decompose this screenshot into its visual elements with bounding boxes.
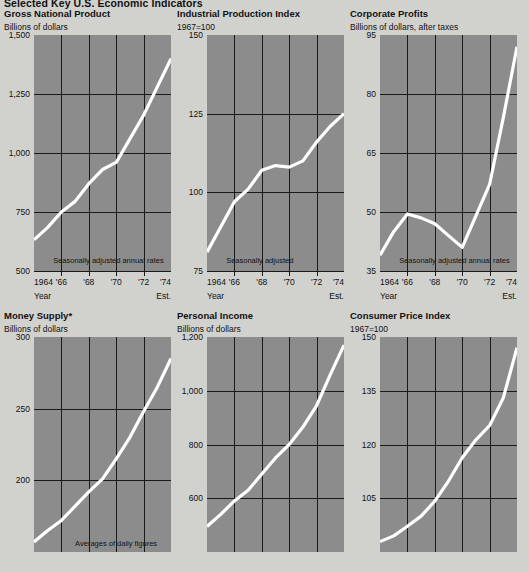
x-axis-footer: Year Est.	[380, 291, 517, 303]
y-axis-tick-label: 95	[367, 31, 376, 40]
x-axis-estimate-note: Est.	[156, 291, 171, 302]
x-axis-name: Year	[380, 291, 397, 302]
x-axis-tick-label: 1964	[380, 277, 399, 288]
x-axis-footer: Year Est.	[207, 291, 344, 303]
plot-area: Averages of daily figures	[34, 337, 171, 552]
plot-area-wrapper: 1,5001,2501,000750500 Seasonally adjuste…	[4, 35, 177, 271]
y-axis-labels: 15012510075	[177, 35, 205, 271]
x-axis-tick-label: '74	[160, 277, 171, 288]
x-axis-labels: 1964'66'68'70'72'74	[34, 277, 171, 289]
x-axis-tick	[317, 272, 318, 276]
y-axis-tick-label: 1,250	[9, 90, 30, 99]
chart-title: Corporate Profits	[350, 8, 523, 19]
x-axis-estimate-note: Est.	[502, 291, 517, 302]
y-axis-tick-label: 50	[367, 208, 376, 217]
x-axis-tick-label: 1964	[207, 277, 226, 288]
chart-title: Industrial Production Index	[177, 8, 350, 19]
y-axis-tick-label: 150	[189, 31, 203, 40]
chart-annotation: Averages of daily figures	[75, 539, 157, 548]
x-axis-tick	[234, 272, 235, 276]
plot-area: Seasonally adjusted annual rates	[34, 35, 171, 271]
y-axis-tick-label: 200	[16, 476, 30, 485]
plot-area-wrapper: 150135120105	[350, 337, 523, 552]
x-axis-tick-label: '66	[56, 277, 67, 288]
x-axis-name: Year	[34, 291, 51, 302]
y-axis-tick-label: 75	[194, 267, 203, 276]
x-axis-ticks	[34, 272, 171, 276]
y-axis-tick-label: 300	[16, 333, 30, 342]
chart-title: Gross National Product	[4, 8, 177, 19]
x-axis-tick-label: '66	[402, 277, 413, 288]
x-axis-tick	[289, 272, 290, 276]
data-series-line	[207, 337, 344, 552]
plot-area-wrapper: 9580655035 Seasonally adjusted annual ra…	[350, 35, 523, 271]
chart-panel-consumer-price-index: Consumer Price Index 1967=100 1501351201…	[350, 310, 523, 572]
chart-title: Consumer Price Index	[350, 310, 523, 321]
x-axis-tick-label: '68	[256, 277, 267, 288]
x-axis-tick	[407, 272, 408, 276]
y-axis-tick-label: 750	[16, 208, 30, 217]
plot-area: Seasonally adjusted	[207, 35, 344, 271]
x-axis-tick	[61, 272, 62, 276]
chart-row-top: Gross National Product Billions of dolla…	[0, 8, 529, 310]
plot-area-wrapper: 1,2001,000800600	[177, 337, 350, 552]
plot-area	[380, 337, 517, 552]
chart-panel-industrial-production-index: Industrial Production Index 1967=100 150…	[177, 8, 350, 310]
chart-panel-personal-income: Personal Income Billions of dollars 1,20…	[177, 310, 350, 572]
y-axis-labels: 300250200	[4, 337, 32, 552]
x-axis-tick-label: '72	[311, 277, 322, 288]
x-axis-tick-label: '70	[111, 277, 122, 288]
data-series-line	[380, 35, 517, 271]
chart-panel-money-supply: Money Supply* Billions of dollars 300250…	[4, 310, 177, 572]
y-axis-tick-label: 65	[367, 149, 376, 158]
x-axis-tick-label: '70	[457, 277, 468, 288]
chart-annotation: Seasonally adjusted annual rates	[53, 256, 164, 265]
chart-title: Personal Income	[177, 310, 350, 321]
x-axis-tick-label: '74	[333, 277, 344, 288]
y-axis-tick-label: 100	[189, 188, 203, 197]
y-axis-tick-label: 500	[16, 267, 30, 276]
plot-area	[207, 337, 344, 552]
y-axis-tick-label: 105	[362, 494, 376, 503]
plot-area: Seasonally adjusted annual rates	[380, 35, 517, 271]
x-axis-tick-label: '68	[429, 277, 440, 288]
chart-annotation: Seasonally adjusted annual rates	[399, 256, 510, 265]
x-axis-tick	[89, 272, 90, 276]
x-axis-tick-label: '72	[138, 277, 149, 288]
x-axis-tick-label: '72	[484, 277, 495, 288]
y-axis-labels: 9580655035	[350, 35, 378, 271]
y-axis-tick-label: 1,000	[182, 386, 203, 395]
x-axis-footer: Year Est.	[34, 291, 171, 303]
plot-area-wrapper: 15012510075 Seasonally adjusted	[177, 35, 350, 271]
x-axis-estimate-note: Est.	[329, 291, 344, 302]
x-axis-tick	[462, 272, 463, 276]
x-axis-tick	[490, 272, 491, 276]
y-axis-tick-label: 1,200	[182, 333, 203, 342]
data-series-line	[34, 337, 171, 552]
y-axis-labels: 1,5001,2501,000750500	[4, 35, 32, 271]
y-axis-tick-label: 125	[189, 109, 203, 118]
x-axis-labels: 1964'66'68'70'72'74	[207, 277, 344, 289]
x-axis-tick	[262, 272, 263, 276]
x-axis-ticks	[207, 272, 344, 276]
y-axis-tick-label: 600	[189, 494, 203, 503]
chart-grid: Gross National Product Billions of dolla…	[0, 8, 529, 572]
y-axis-tick-label: 80	[367, 90, 376, 99]
chart-panel-gross-national-product: Gross National Product Billions of dolla…	[4, 8, 177, 310]
y-axis-labels: 150135120105	[350, 337, 378, 552]
y-axis-tick-label: 35	[367, 267, 376, 276]
x-axis-tick-label: '74	[506, 277, 517, 288]
data-series-line	[34, 35, 171, 271]
chart-row-bottom: Money Supply* Billions of dollars 300250…	[0, 310, 529, 572]
chart-panel-corporate-profits: Corporate Profits Billions of dollars, a…	[350, 8, 523, 310]
x-axis-tick-label: '66	[229, 277, 240, 288]
y-axis-tick-label: 120	[362, 440, 376, 449]
y-axis-tick-label: 150	[362, 333, 376, 342]
y-axis-tick-label: 250	[16, 404, 30, 413]
x-axis-name: Year	[207, 291, 224, 302]
x-axis-tick	[435, 272, 436, 276]
y-axis-labels: 1,2001,000800600	[177, 337, 205, 552]
x-axis-tick	[116, 272, 117, 276]
chart-title: Money Supply*	[4, 310, 177, 321]
data-series-line	[380, 337, 517, 552]
